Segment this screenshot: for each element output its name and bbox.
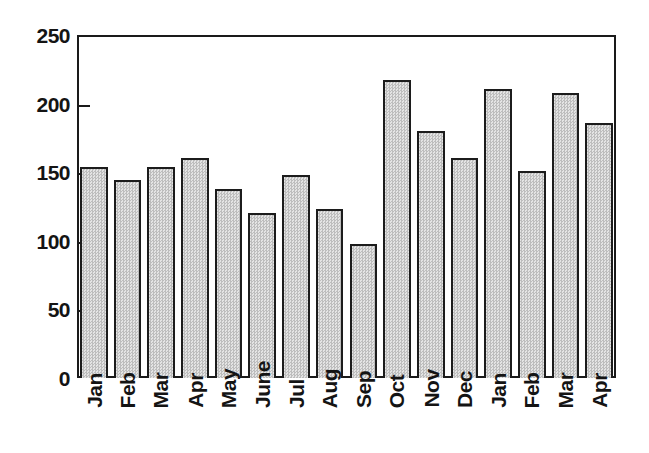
x-tick-label: Jul [279, 383, 313, 451]
x-tick-label-text: Jul [285, 379, 306, 408]
x-tick-label: Feb [111, 383, 145, 451]
x-tick-label-text: Dec [454, 371, 475, 408]
bar [181, 158, 209, 378]
x-tick-label-text: Oct [387, 374, 408, 408]
x-tick-label-text: Jan [488, 373, 509, 408]
y-tick-label: 150 [2, 162, 70, 183]
x-tick-label-text: Apr [589, 373, 610, 408]
bar [552, 93, 580, 378]
bar [248, 213, 276, 378]
x-tick-label: Dec [448, 383, 482, 451]
y-tick-label: 100 [2, 230, 70, 251]
bar [282, 175, 310, 378]
bar [80, 167, 108, 378]
x-tick-label-text: May [218, 369, 239, 408]
bar [350, 244, 378, 378]
x-tick-label: Aug [313, 383, 347, 451]
bar [518, 171, 546, 378]
x-tick-label-text: Sep [353, 371, 374, 408]
y-tick-label: 250 [2, 25, 70, 46]
y-axis: 050100150200250 [0, 0, 70, 453]
x-tick-label: May [212, 383, 246, 451]
x-tick-label-text: Nov [420, 370, 441, 408]
x-tick-label-text: Apr [184, 373, 205, 408]
bar-chart-figure: 050100150200250 JanFebMarAprMayJuneJulAu… [0, 0, 649, 453]
y-tick-label: 50 [2, 299, 70, 320]
bar [147, 167, 175, 378]
x-tick-label-text: June [252, 361, 273, 408]
x-tick-label-text: Feb [117, 372, 138, 408]
x-tick-label: Feb [515, 383, 549, 451]
x-tick-label-text: Mar [151, 372, 172, 408]
bar [316, 209, 344, 378]
x-tick-label-text: Mar [555, 372, 576, 408]
bar [114, 180, 142, 378]
x-tick-label: Sep [347, 383, 381, 451]
bar [215, 189, 243, 378]
x-tick-label: Mar [144, 383, 178, 451]
bars-container [77, 35, 616, 378]
x-tick-label: Nov [414, 383, 448, 451]
x-tick-label: Jan [481, 383, 515, 451]
x-tick-label: Apr [178, 383, 212, 451]
bar [383, 80, 411, 378]
x-tick-label: Oct [380, 383, 414, 451]
x-tick-label: June [245, 383, 279, 451]
x-tick-label-text: Aug [319, 369, 340, 408]
x-tick-label: Apr [582, 383, 616, 451]
bar [484, 89, 512, 378]
bar [451, 158, 479, 378]
y-tick-label: 200 [2, 93, 70, 114]
bar [585, 123, 613, 378]
bar [417, 131, 445, 378]
x-tick-label: Jan [77, 383, 111, 451]
x-tick-label-text: Feb [521, 372, 542, 408]
y-tick-label: 0 [2, 368, 70, 389]
x-axis: JanFebMarAprMayJuneJulAugSepOctNovDecJan… [77, 383, 616, 453]
x-tick-label-text: Jan [83, 373, 104, 408]
x-tick-label: Mar [549, 383, 583, 451]
